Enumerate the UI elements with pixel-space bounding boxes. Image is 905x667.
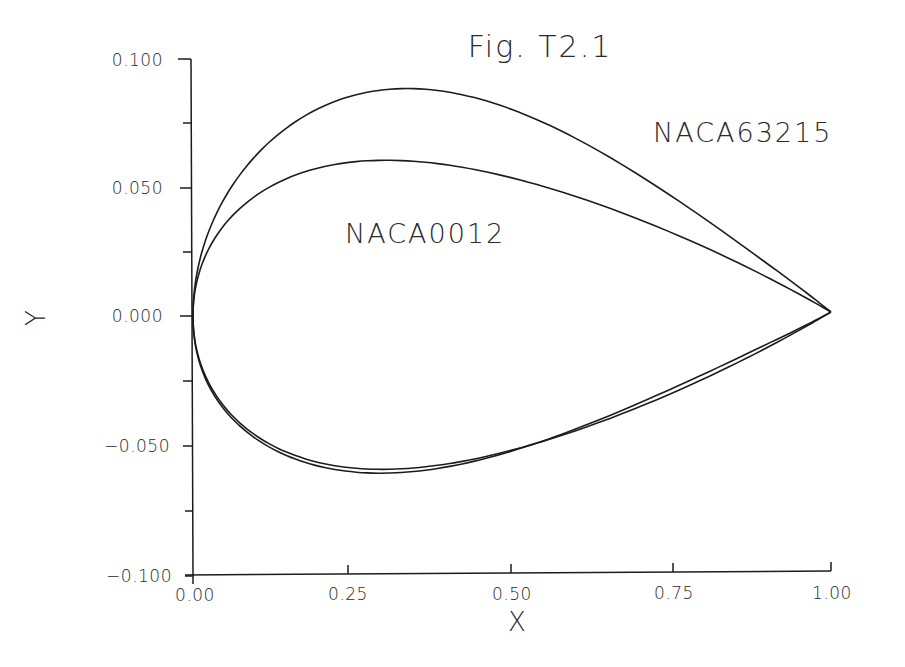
x-tick-label: 0.50 [492, 584, 532, 604]
x-tick-label: 0.00 [175, 585, 215, 605]
y-axis: 0.100 0.050 0.000 −0.050 −0.100 Y [21, 50, 193, 586]
x-tick-label: 0.25 [328, 584, 368, 604]
chart-title: Fig. T2.1 [468, 29, 613, 64]
naca0012-label: NACA0012 [345, 218, 505, 249]
y-axis-title: Y [21, 310, 51, 326]
naca0012-lower-surface [193, 312, 831, 469]
x-tick-label: 1.00 [812, 583, 852, 603]
x-axis-line [185, 571, 831, 575]
naca0012-upper-surface [193, 160, 831, 316]
x-axis: 0.00 0.25 0.50 0.75 1.00 X [175, 562, 852, 637]
y-tick-label: 0.000 [112, 306, 163, 326]
airfoil-chart: Fig. T2.1 0.100 0.050 0.000 −0.050 −0.10… [0, 0, 905, 667]
y-tick-label: −0.100 [106, 566, 172, 586]
y-tick-label: 0.050 [112, 178, 163, 198]
y-tick-label: 0.100 [112, 50, 163, 70]
x-axis-title: X [508, 607, 526, 637]
naca63215-label: NACA63215 [653, 117, 832, 148]
y-tick-label: −0.050 [104, 436, 170, 456]
naca63215-lower-surface [193, 312, 831, 473]
x-tick-label: 0.75 [654, 583, 694, 603]
